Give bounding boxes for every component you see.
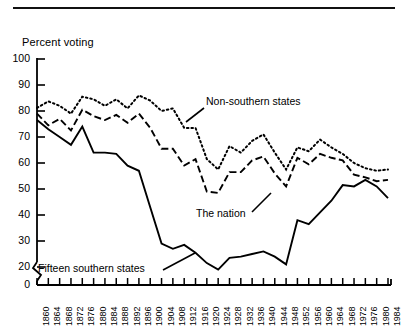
x-tick-label-1868: 1868 [64, 307, 74, 326]
x-tick-label-1904: 1904 [166, 307, 176, 326]
x-tick-label-1956: 1956 [313, 307, 323, 326]
x-tick-label-1888: 1888 [120, 307, 130, 326]
x-tick-label-1896: 1896 [143, 307, 153, 326]
x-tick-label-1932: 1932 [245, 307, 255, 326]
y-tick-label-50: 50 [6, 182, 30, 194]
series-label-non-southern-states: Non-southern states [206, 95, 301, 107]
x-tick-label-1924: 1924 [222, 307, 232, 326]
chart-figure: Percent voting 02030405060708090100 1860… [0, 0, 408, 332]
y-tick-label-90: 90 [6, 78, 30, 90]
x-tick-label-1928: 1928 [233, 307, 243, 326]
x-tick-label-1860: 1860 [41, 307, 51, 326]
x-tick-label-1892: 1892 [132, 307, 142, 326]
x-tick-label-1880: 1880 [98, 307, 108, 326]
leader-the-nation [252, 193, 271, 212]
series-label-fifteen-southern-states: Fifteen southern states [38, 262, 145, 274]
y-tick-label-70: 70 [6, 130, 30, 142]
x-tick-label-1900: 1900 [154, 307, 164, 326]
leader-non-southern-states [186, 108, 204, 122]
x-tick-label-1940: 1940 [267, 307, 277, 326]
leader-fifteen-southern-states [163, 253, 195, 270]
x-tick-label-1884: 1884 [109, 307, 119, 326]
x-tick-label-1944: 1944 [279, 307, 289, 326]
x-tick-label-1976: 1976 [369, 307, 379, 326]
x-tick-label-1916: 1916 [200, 307, 210, 326]
series-line-the-nation [37, 110, 388, 193]
x-tick-label-1876: 1876 [86, 307, 96, 326]
axes-group [33, 58, 391, 285]
x-tick-label-1948: 1948 [290, 307, 300, 326]
y-tick-label-40: 40 [6, 208, 30, 220]
y-tick-label-60: 60 [6, 156, 30, 168]
series-line-fifteen-southern-states [37, 120, 388, 270]
x-tick-label-1952: 1952 [301, 307, 311, 326]
x-tick-label-1936: 1936 [256, 307, 266, 326]
y-tick-label-100: 100 [6, 52, 30, 64]
series-group [37, 95, 388, 269]
y-tick-label-80: 80 [6, 104, 30, 116]
x-tick-label-1972: 1972 [358, 307, 368, 326]
x-tick-label-1960: 1960 [324, 307, 334, 326]
x-tick-label-1968: 1968 [347, 307, 357, 326]
x-tick-label-1984: 1984 [392, 307, 402, 326]
x-tick-label-1912: 1912 [188, 307, 198, 326]
x-tick-label-1908: 1908 [177, 307, 187, 326]
x-tick-label-1872: 1872 [75, 307, 85, 326]
y-tick-label-30: 30 [6, 234, 30, 246]
series-label-the-nation: The nation [196, 207, 246, 219]
x-tick-label-1920: 1920 [211, 307, 221, 326]
x-tick-label-1864: 1864 [52, 307, 62, 326]
y-tick-label-0: 0 [6, 278, 30, 290]
chart-plot-area [0, 0, 408, 332]
y-tick-label-20: 20 [6, 260, 30, 272]
x-tick-label-1964: 1964 [335, 307, 345, 326]
x-tick-label-1980: 1980 [381, 307, 391, 326]
